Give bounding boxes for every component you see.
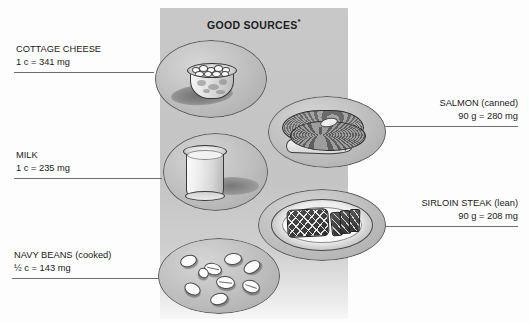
leader-line-milk — [14, 178, 162, 179]
label-milk: MILK 1 c = 235 mg — [16, 149, 70, 175]
label-name: MILK — [16, 149, 70, 162]
label-amount: 90 g = 208 mg — [368, 210, 518, 223]
label-name: NAVY BEANS (cooked) — [14, 249, 111, 262]
spot-outline — [158, 238, 280, 314]
label-cottage-cheese: COTTAGE CHEESE 1 c = 341 mg — [16, 43, 101, 69]
figure-canvas: GOOD SOURCES* COTTAGE CHEESE 1 c = 341 m… — [0, 0, 529, 323]
spot-outline — [268, 96, 386, 168]
label-amount: 1 c = 341 mg — [16, 56, 101, 69]
label-sirloin-steak: SIRLOIN STEAK (lean) 90 g = 208 mg — [368, 197, 518, 223]
label-amount: 1 c = 235 mg — [16, 162, 70, 175]
sirloin-steak-plate-illustration — [258, 189, 386, 261]
label-name: SALMON (canned) — [368, 97, 518, 110]
leader-line-cottage-cheese — [14, 72, 154, 73]
spot-outline — [258, 189, 386, 261]
label-name: COTTAGE CHEESE — [16, 43, 101, 56]
label-name: SIRLOIN STEAK (lean) — [368, 197, 518, 210]
label-amount: 90 g = 280 mg — [368, 110, 518, 123]
label-salmon: SALMON (canned) 90 g = 280 mg — [368, 97, 518, 123]
footnote-marker-icon: * — [298, 17, 301, 26]
spot-outline — [163, 133, 268, 211]
navy-beans-illustration — [158, 238, 280, 314]
leader-line-salmon — [368, 126, 518, 127]
panel-title-text: GOOD SOURCES — [207, 19, 298, 31]
salmon-steak-illustration — [268, 96, 386, 168]
milk-glass-illustration — [163, 133, 268, 211]
cottage-cheese-bowl-illustration — [155, 40, 267, 118]
label-navy-beans: NAVY BEANS (cooked) ½ c = 143 mg — [14, 249, 111, 275]
leader-line-sirloin-steak — [368, 226, 518, 227]
label-amount: ½ c = 143 mg — [14, 262, 111, 275]
panel-title: GOOD SOURCES* — [160, 17, 348, 31]
leader-line-navy-beans — [12, 278, 160, 279]
spot-outline — [155, 40, 267, 118]
